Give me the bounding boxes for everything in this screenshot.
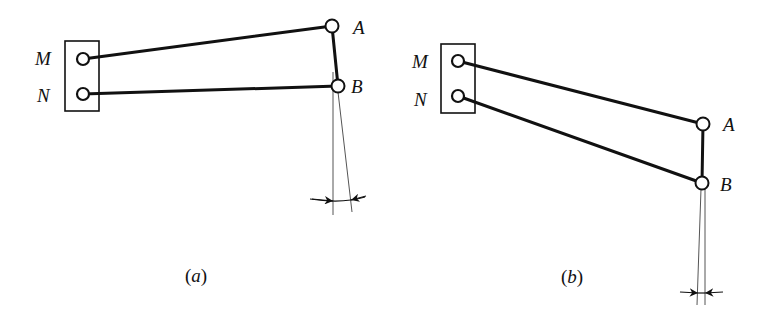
guide-line-b-1 bbox=[697, 189, 701, 305]
label-M-a: M bbox=[34, 48, 52, 69]
link-NB-b bbox=[458, 96, 702, 183]
label-N-b: N bbox=[413, 89, 428, 110]
label-N-a: N bbox=[36, 85, 51, 106]
link-MA-b bbox=[458, 61, 703, 124]
joint-A-a bbox=[326, 20, 339, 33]
link-MA-a bbox=[83, 26, 332, 59]
label-A-b: A bbox=[721, 114, 735, 135]
joint-A-b bbox=[697, 118, 710, 131]
caption-a: (a) bbox=[185, 265, 207, 287]
figure-b: M N A B (b) bbox=[411, 44, 735, 305]
link-AB-b bbox=[702, 124, 703, 183]
four-bar-linkage-diagram: M N A B (a) M N A B (b) bbox=[0, 0, 777, 316]
joint-B-b bbox=[696, 177, 709, 190]
joint-B-a bbox=[332, 80, 345, 93]
dimension-arrow-right-a bbox=[351, 196, 366, 200]
label-M-b: M bbox=[411, 51, 429, 72]
guide-line-a-2 bbox=[338, 92, 352, 212]
label-B-a: B bbox=[351, 76, 363, 97]
pin-M-b bbox=[452, 55, 464, 67]
label-A-a: A bbox=[351, 17, 365, 38]
pin-M-a bbox=[77, 53, 89, 65]
label-B-b: B bbox=[720, 174, 732, 195]
dimension-arrow-left-b bbox=[680, 292, 698, 293]
figure-a: M N A B (a) bbox=[34, 17, 366, 287]
link-NB-a bbox=[83, 86, 338, 94]
dimension-arrow-right-b bbox=[705, 292, 723, 293]
caption-b: (b) bbox=[561, 266, 583, 288]
pin-N-a bbox=[77, 88, 89, 100]
pin-N-b bbox=[452, 90, 464, 102]
